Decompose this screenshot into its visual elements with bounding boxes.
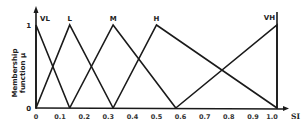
series-m bbox=[70, 25, 176, 108]
series-lines bbox=[36, 25, 277, 108]
x-tick-label: 0.8 bbox=[223, 113, 235, 121]
y-tick-label: 1 bbox=[26, 22, 31, 30]
x-axis-arrow-icon bbox=[283, 106, 289, 111]
x-axis-line bbox=[36, 108, 285, 109]
series-label-l: L bbox=[68, 15, 73, 23]
x-tick-label: 0.1 bbox=[54, 113, 66, 121]
membership-function-chart: VLLMHVH00.10.20.30.40.50.60.70.80.91.0SI… bbox=[0, 0, 305, 126]
x-tick-label: 0.2 bbox=[78, 113, 90, 121]
x-tick-label: 0.7 bbox=[199, 113, 211, 121]
x-tick-label: 0.6 bbox=[175, 113, 187, 121]
series-h bbox=[113, 25, 277, 108]
x-tick-label: 0.4 bbox=[127, 113, 139, 121]
y-axis-label: Membership function μ bbox=[4, 38, 34, 108]
series-label-vh: VH bbox=[264, 14, 275, 22]
series-l bbox=[36, 25, 113, 108]
y-axis-arrow-icon bbox=[34, 6, 39, 13]
x-tick-label: 0.3 bbox=[103, 113, 115, 121]
series-label-h: H bbox=[154, 15, 160, 23]
y-axis-label-line-2: function μ bbox=[19, 49, 27, 98]
series-label-m: M bbox=[110, 15, 117, 23]
series-label-vl: VL bbox=[40, 15, 50, 23]
x-tick-label: 0.5 bbox=[151, 113, 163, 121]
x-tick-label: 0.9 bbox=[247, 113, 259, 121]
y-axis-label-line-1: Membership bbox=[11, 49, 19, 98]
x-axis-label: SI bbox=[291, 112, 300, 121]
x-tick-label: 0 bbox=[34, 113, 39, 121]
x-tick-label: 1.0 bbox=[266, 113, 278, 121]
series-vh bbox=[176, 25, 277, 108]
